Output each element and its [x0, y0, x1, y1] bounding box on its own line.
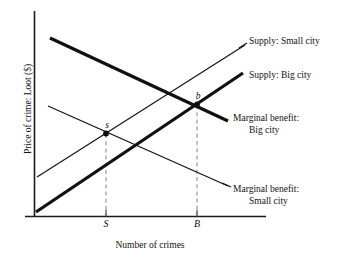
x-tick-label-b: B	[187, 218, 207, 229]
x-axis-title: Number of crimes	[34, 240, 266, 250]
curve-supply-big-city	[36, 73, 243, 212]
curve-mb-big-city	[50, 38, 228, 121]
curve-supply-small-city	[37, 45, 245, 177]
point-marker-s	[103, 131, 109, 137]
curve-label-supply-big-city: Supply: Big city	[249, 70, 311, 82]
curve-label-supply-small-city: Supply: Small city	[249, 36, 320, 48]
curve-label-mb-small-city: Marginal benefit: Small city	[233, 184, 299, 207]
leader-supply-small-city	[239, 43, 247, 48]
y-axis-title: Price of crime: Loot ($)	[23, 29, 33, 189]
curve-label-supply-small-city-text: Supply: Small city	[249, 36, 320, 46]
curve-mb-small-city	[48, 106, 228, 186]
curve-label-mb-small-city-line1: Marginal benefit:	[233, 184, 299, 194]
curve-label-mb-big-city-line2: Big city	[233, 125, 299, 137]
curve-label-mb-big-city-line1: Marginal benefit:	[233, 113, 299, 123]
point-label-s: s	[99, 120, 115, 130]
point-label-b: b	[190, 91, 206, 101]
point-marker-b	[194, 102, 200, 108]
x-tick-label-s: S	[96, 218, 116, 229]
curve-label-mb-small-city-line2: Small city	[233, 196, 299, 208]
leader-mb-small-city	[222, 183, 231, 187]
curve-label-mb-big-city: Marginal benefit: Big city	[233, 113, 299, 136]
chart-figure: Price of crime: Loot ($) Number of crime…	[0, 0, 340, 259]
curve-label-supply-big-city-text: Supply: Big city	[249, 70, 311, 80]
